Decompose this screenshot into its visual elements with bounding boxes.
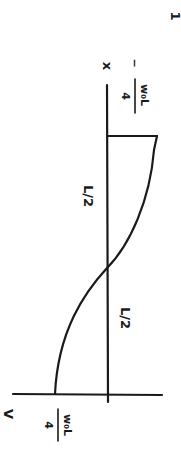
v-axis-label: V	[1, 409, 16, 419]
end-value-numerator: w₀L	[138, 84, 151, 106]
v-axis-line	[13, 394, 162, 395]
end-value-denominator: 4	[119, 92, 132, 100]
shear-diagram: 1 x V L/2 L/2 − w₀L 4 w₀L 4	[0, 0, 181, 456]
end-value-sign: −	[128, 58, 141, 67]
end-value-label: − w₀L 4	[119, 58, 151, 113]
start-value-denominator: 4	[42, 421, 55, 429]
x-axis-line	[107, 85, 108, 402]
segment-label-2: L/2	[118, 307, 133, 329]
start-value-label: w₀L 4	[42, 409, 74, 441]
x-axis-label: x	[100, 62, 115, 71]
segment-label-1: L/2	[81, 185, 96, 207]
page-number: 1	[168, 11, 181, 20]
shear-curve	[55, 136, 157, 394]
start-value-numerator: w₀L	[61, 414, 74, 436]
